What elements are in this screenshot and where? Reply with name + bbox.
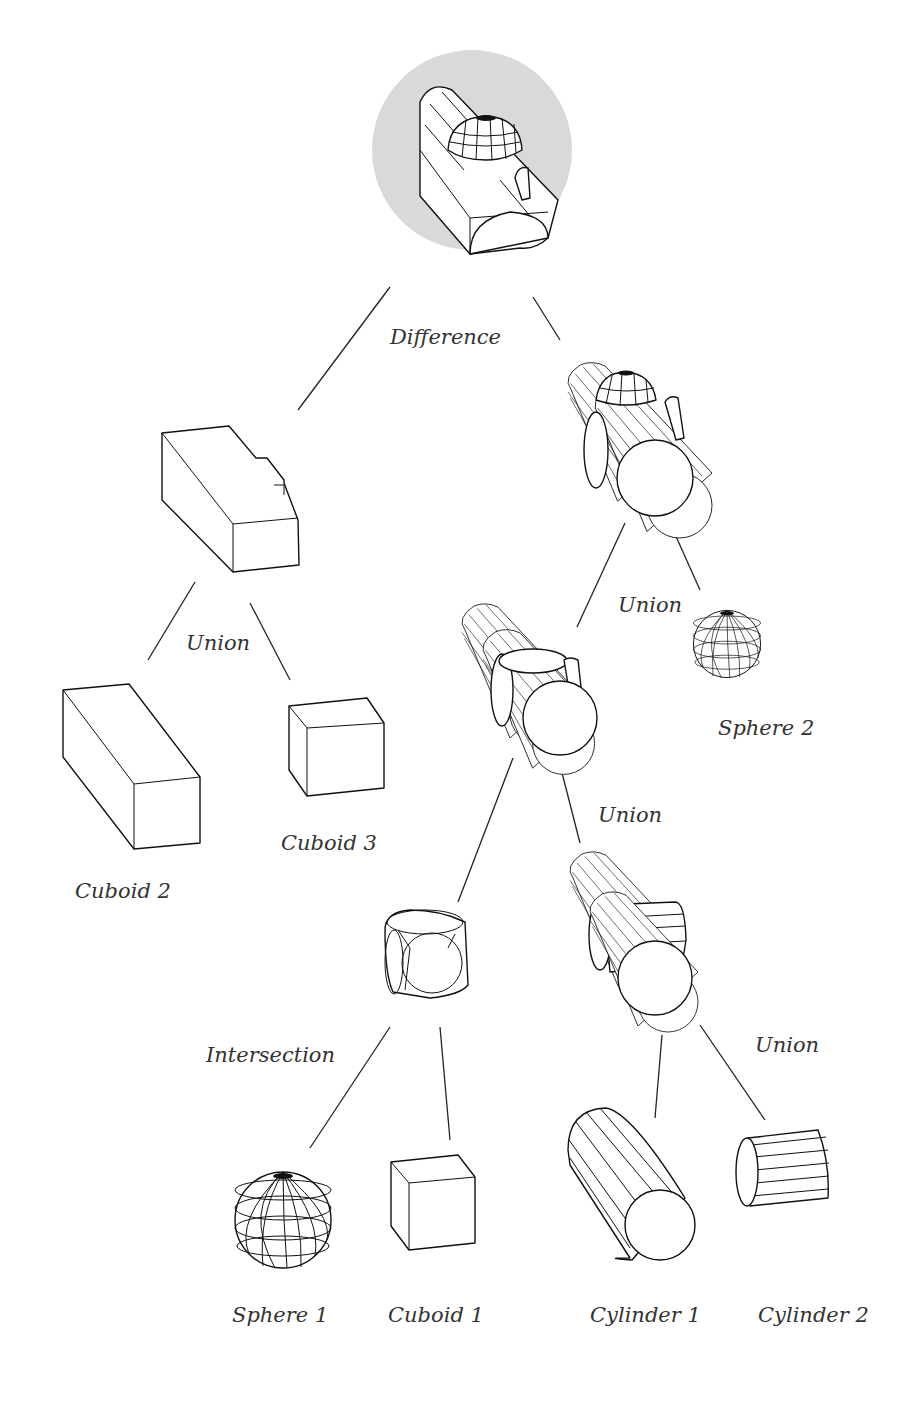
label-intersection: Intersection	[205, 1043, 335, 1067]
label-cylinder2: Cylinder 2	[758, 1303, 869, 1327]
node-root-difference[interactable]: Difference	[372, 50, 572, 349]
node-cuboid3[interactable]: Cuboid 3	[281, 698, 384, 855]
sphere1-solid-icon	[235, 1172, 331, 1268]
cuboid2-solid-icon	[63, 684, 200, 849]
label-cuboid1: Cuboid 1	[388, 1303, 484, 1327]
csg-tree-diagram: Difference Union Cuboid 2 Cuboid 3	[0, 0, 917, 1403]
label-cylinder1: Cylinder 1	[590, 1303, 701, 1327]
label-right-union-top: Union	[618, 593, 682, 617]
cylinders-union-icon	[462, 604, 597, 775]
label-cuboid3: Cuboid 3	[281, 831, 377, 855]
node-cuboid2[interactable]: Cuboid 2	[63, 684, 200, 903]
cylinder2-solid-icon	[736, 1130, 829, 1206]
label-difference: Difference	[389, 325, 501, 349]
cylinders-sphere-union-icon	[568, 363, 712, 538]
label-right-union-low: Union	[755, 1033, 819, 1057]
node-cylinder2[interactable]: Cylinder 2	[736, 1130, 869, 1327]
node-right-union-low-result[interactable]: Union	[570, 852, 819, 1057]
cuboid3-solid-icon	[289, 698, 384, 796]
cylinder1-solid-icon	[568, 1108, 695, 1260]
label-sphere1: Sphere 1	[232, 1303, 328, 1327]
node-sphere1[interactable]: Sphere 1	[232, 1172, 331, 1327]
sphere2-solid-icon	[693, 610, 760, 677]
label-right-union-mid: Union	[598, 803, 662, 827]
node-cuboid1[interactable]: Cuboid 1	[388, 1155, 484, 1327]
label-cuboid2: Cuboid 2	[75, 879, 171, 903]
two-cylinders-union-icon	[570, 852, 698, 1032]
cuboid1-solid-icon	[391, 1155, 475, 1250]
label-left-union: Union	[186, 631, 250, 655]
node-sphere2[interactable]: Sphere 2	[693, 610, 814, 740]
node-cylinder1[interactable]: Cylinder 1	[568, 1108, 701, 1327]
node-intersection-result[interactable]: Intersection	[205, 910, 468, 1067]
label-sphere2: Sphere 2	[718, 716, 814, 740]
node-right-union-mid-result[interactable]: Union	[462, 604, 662, 827]
sphere-cuboid-intersection-icon	[385, 910, 468, 998]
cuboid-union-result-icon	[162, 426, 299, 572]
node-left-union-result[interactable]: Union	[162, 426, 299, 655]
node-right-union-top-result[interactable]: Union	[568, 363, 712, 617]
